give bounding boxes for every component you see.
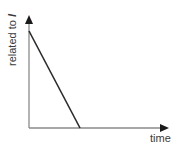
y-axis-label: related to I xyxy=(6,14,18,66)
diagram-canvas xyxy=(0,0,182,148)
x-axis-label: time xyxy=(150,132,171,144)
y-axis-arrow-icon xyxy=(25,15,33,24)
x-axis-arrow-icon xyxy=(160,124,169,132)
data-line xyxy=(29,31,80,128)
